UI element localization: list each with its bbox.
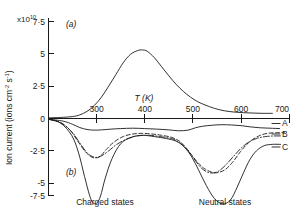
curve-label-a: A (282, 118, 288, 128)
curve-c (49, 119, 281, 204)
y-tick-label-0: 7·5 (33, 17, 46, 27)
x-tick-label-0: 300 (90, 104, 104, 114)
x-tick-label-4: 700 (275, 104, 289, 114)
curve-labels: A B C (282, 118, 288, 152)
y-tick-label-6: -7·5 (30, 191, 45, 201)
y-tick-label-5: -5 (37, 178, 45, 188)
y-tick-label-2: 2·5 (33, 81, 46, 91)
annotation-neutral-states: Neutral states (199, 197, 251, 207)
x-axis-title: T (K) (135, 93, 154, 103)
panel-label-a: (a) (66, 19, 77, 29)
x-tick-label-2: 500 (186, 104, 200, 114)
y-tick-label-4: -2·5 (30, 146, 45, 156)
y-axis-title: Ion current (ions cm-2 s-1) (4, 70, 14, 165)
y-tick-label-3: 0 (40, 114, 45, 124)
curve-label-b: B (282, 129, 288, 139)
x-tick-label-1: 400 (138, 104, 152, 114)
y-tick-label-1: 5 (40, 49, 45, 59)
y-tick-labels: 7·5 5 2·5 0 -2·5 -5 -7·5 (30, 17, 45, 201)
data-curves (49, 50, 285, 204)
chart-svg: x1010 Ion current (ions cm-2 s-1) 7·5 5 … (0, 0, 297, 215)
y-exponent-prefix: x10 (17, 15, 30, 24)
y-tick-marks (49, 22, 54, 196)
panel-label-b: (b) (66, 167, 77, 177)
y-axis-title-mid: s (4, 78, 14, 85)
figure-container: x1010 Ion current (ions cm-2 s-1) 7·5 5 … (0, 0, 297, 215)
annotation-charged-states: Charged states (76, 197, 134, 207)
curve-a (49, 119, 280, 131)
x-tick-labels: 300 400 500 600 700 (90, 104, 290, 114)
y-axis-title-main: Ion current (ions cm (4, 90, 14, 165)
curve-label-leaders (272, 124, 280, 148)
curve-b (49, 119, 285, 173)
curve-label-c: C (282, 142, 288, 152)
y-axis-title-end: ) (4, 70, 14, 73)
